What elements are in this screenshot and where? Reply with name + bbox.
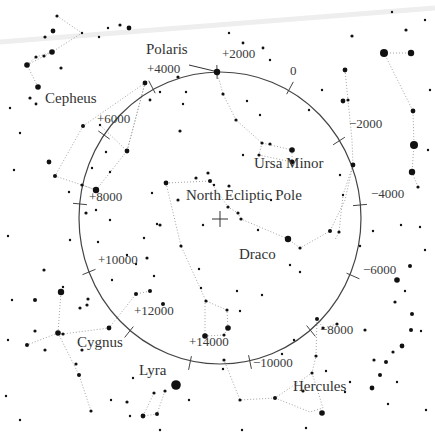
star xyxy=(13,169,15,171)
sky-map xyxy=(0,0,435,441)
star xyxy=(337,230,340,233)
star xyxy=(208,179,212,183)
constellation-line xyxy=(166,165,353,248)
star xyxy=(153,275,155,277)
year-tick-mark xyxy=(333,137,345,145)
star xyxy=(107,326,112,331)
star xyxy=(372,358,375,361)
star xyxy=(391,11,393,13)
star xyxy=(349,381,351,383)
star xyxy=(105,151,107,153)
star xyxy=(269,59,271,61)
star xyxy=(319,410,325,416)
year-tick-mark xyxy=(249,355,252,369)
star xyxy=(236,290,238,292)
star xyxy=(155,412,159,416)
star xyxy=(58,289,64,295)
star xyxy=(125,149,130,154)
star xyxy=(24,62,30,68)
constellation-line xyxy=(27,333,58,345)
star xyxy=(33,329,36,332)
star xyxy=(59,66,62,69)
star xyxy=(221,92,224,95)
star xyxy=(225,308,228,311)
star xyxy=(125,400,128,403)
constellation-line xyxy=(217,72,292,150)
star xyxy=(78,306,81,309)
star xyxy=(299,271,301,273)
star xyxy=(69,239,71,241)
star xyxy=(363,328,366,331)
star xyxy=(372,230,374,232)
star xyxy=(396,381,398,383)
star xyxy=(429,89,431,91)
star xyxy=(261,294,263,296)
star xyxy=(35,103,38,106)
star xyxy=(342,194,344,196)
polaris-pointer-arrow xyxy=(189,65,214,71)
star xyxy=(393,300,396,303)
star xyxy=(315,317,319,321)
star xyxy=(132,377,134,379)
star xyxy=(239,217,242,220)
star xyxy=(214,69,220,75)
constellation-line xyxy=(27,52,52,87)
star xyxy=(109,171,111,173)
star xyxy=(204,299,207,302)
star xyxy=(305,427,307,429)
star xyxy=(80,183,83,186)
star xyxy=(77,373,81,377)
star xyxy=(206,171,209,174)
star xyxy=(188,399,190,401)
star xyxy=(378,373,382,377)
star xyxy=(61,332,64,335)
star xyxy=(419,226,421,228)
year-label: −10000 xyxy=(253,356,293,369)
year-label: −6000 xyxy=(363,263,396,276)
star xyxy=(424,19,426,21)
year-label: +8000 xyxy=(89,190,122,203)
star xyxy=(222,358,225,361)
star xyxy=(182,103,184,105)
star xyxy=(25,343,29,347)
star xyxy=(171,380,181,390)
star xyxy=(228,32,230,34)
star xyxy=(55,330,61,336)
star xyxy=(86,297,89,300)
constellation-line xyxy=(58,292,61,333)
star xyxy=(289,264,291,266)
star xyxy=(149,99,152,102)
star xyxy=(148,289,152,293)
year-label: −2000 xyxy=(349,117,382,130)
year-label: 0 xyxy=(290,64,297,77)
year-tick-mark xyxy=(189,356,192,370)
star xyxy=(268,142,271,145)
star xyxy=(260,141,263,144)
star xyxy=(143,237,145,239)
star xyxy=(198,268,200,270)
star xyxy=(234,118,237,121)
star xyxy=(109,219,111,221)
year-tick-mark xyxy=(353,204,367,205)
star xyxy=(19,132,21,134)
star xyxy=(163,389,166,392)
star xyxy=(425,409,427,411)
star xyxy=(408,50,414,56)
label-lyra: Lyra xyxy=(139,363,167,378)
star xyxy=(325,370,327,372)
star xyxy=(145,256,148,259)
constellation-line xyxy=(82,151,127,190)
star xyxy=(400,224,402,226)
star xyxy=(427,149,429,151)
star xyxy=(143,81,148,86)
star xyxy=(141,414,146,419)
star xyxy=(53,174,57,178)
year-tick-mark xyxy=(83,269,96,274)
star xyxy=(11,299,13,301)
star xyxy=(68,191,70,193)
star xyxy=(134,292,138,296)
star xyxy=(370,386,375,391)
star xyxy=(158,223,161,226)
year-label: +12000 xyxy=(134,304,174,317)
year-label: +10000 xyxy=(98,253,138,266)
